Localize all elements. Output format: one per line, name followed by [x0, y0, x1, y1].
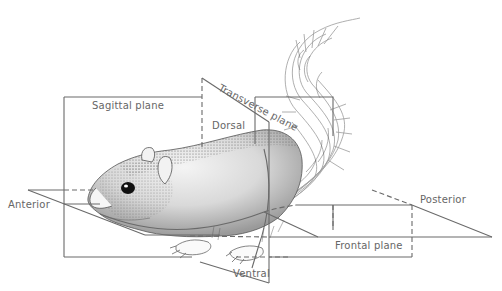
sagittal-plane-label: Sagittal plane	[92, 100, 164, 111]
anterior-label: Anterior	[8, 199, 50, 210]
frontal-plane-label: Frontal plane	[335, 240, 403, 251]
ventral-label: Ventral	[233, 268, 270, 279]
anatomical-planes-diagram: Sagittal plane Transverse plane Dorsal A…	[0, 0, 502, 291]
squirrel-feet	[170, 240, 263, 264]
squirrel-eye	[121, 182, 135, 194]
dorsal-label: Dorsal	[212, 120, 245, 131]
posterior-label: Posterior	[420, 194, 466, 205]
